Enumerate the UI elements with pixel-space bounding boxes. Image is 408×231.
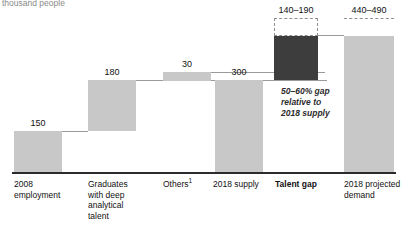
cat-line: 2018 supply <box>213 179 277 190</box>
value-label-projected-demand: 440–490 <box>341 5 397 15</box>
cat-line: demand <box>344 190 408 201</box>
category-label-projected-demand: 2018 projected demand <box>344 179 408 200</box>
category-label-2018-supply: 2018 supply <box>213 179 277 190</box>
cat-line: Graduates <box>88 179 152 190</box>
connector-line-1-2 <box>136 80 163 81</box>
x-axis-line <box>12 172 396 174</box>
cat-line: talent <box>88 211 152 222</box>
annotation-line-2: relative to <box>281 97 351 108</box>
talent-gap-annotation: 50–60% gap relative to 2018 supply <box>281 86 351 119</box>
cat-line: 2008 <box>14 179 76 190</box>
bar-2018-projected-demand <box>344 35 394 172</box>
others-text: Others <box>163 179 189 189</box>
bar-2008-employment <box>14 131 62 172</box>
category-label-2008-employment: 2008 employment <box>14 179 76 200</box>
waterfall-chart: thousand people 150 180 30 300 140–190 4… <box>0 0 408 231</box>
annotation-line-3: 2018 supply <box>281 108 351 119</box>
value-label-others: 30 <box>163 59 211 69</box>
connector-line-0-1 <box>62 131 88 132</box>
cat-line: Talent gap <box>275 179 339 190</box>
category-label-talent-gap: Talent gap <box>275 179 339 190</box>
chart-subtitle: thousand people <box>2 0 65 8</box>
projected-demand-range-box <box>344 18 394 36</box>
cat-line: 2018 projected <box>344 179 408 190</box>
bar-talent-gap <box>274 35 318 80</box>
cat-line: employment <box>14 190 76 201</box>
footnote-marker-1: 1 <box>189 177 193 184</box>
cat-line: with deep <box>88 190 152 201</box>
value-label-2018-supply: 300 <box>215 67 263 77</box>
bar-others <box>163 72 211 81</box>
talent-gap-range-box <box>274 18 318 36</box>
annotation-line-1: 50–60% gap <box>281 86 351 97</box>
value-label-talent-gap: 140–190 <box>268 5 324 15</box>
bar-2018-supply <box>215 80 263 172</box>
value-label-2008-employment: 150 <box>14 118 62 128</box>
category-label-graduates: Graduates with deep analytical talent <box>88 179 152 221</box>
value-label-graduates: 180 <box>88 67 136 77</box>
cat-line: analytical <box>88 200 152 211</box>
bar-graduates <box>88 80 136 131</box>
